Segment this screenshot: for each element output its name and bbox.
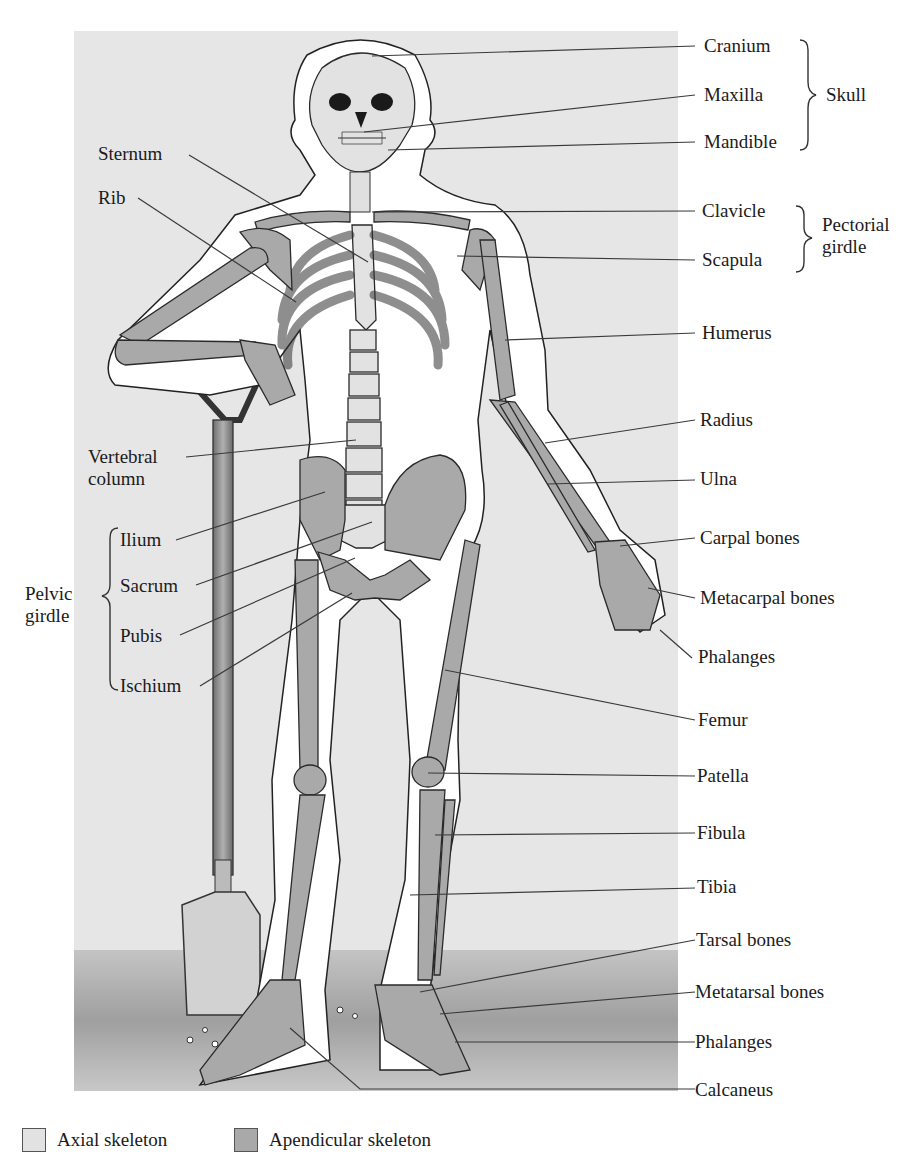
legend-appendicular-label: Apendicular skeleton: [269, 1129, 431, 1151]
swatch-axial: [22, 1128, 46, 1152]
label-scapula: Scapula: [702, 249, 762, 271]
label-rib: Rib: [98, 187, 125, 209]
label-cranium: Cranium: [704, 35, 771, 57]
label-tarsal-bones: Tarsal bones: [696, 929, 791, 951]
label-pubis: Pubis: [120, 625, 162, 647]
label-clavicle: Clavicle: [702, 200, 765, 222]
ground: [74, 950, 678, 1091]
label-patella: Patella: [697, 765, 749, 787]
label-femur: Femur: [698, 709, 748, 731]
group-label-pectoral-girdle: Pectorial girdle: [822, 214, 902, 258]
legend-axial: Axial skeleton: [22, 1128, 167, 1152]
label-ilium: Ilium: [120, 529, 161, 551]
label-metacarpal-bones: Metacarpal bones: [700, 587, 835, 609]
label-vertebral-column: Vertebral column: [88, 446, 178, 490]
label-calcaneus: Calcaneus: [695, 1079, 773, 1101]
swatch-appendicular: [234, 1128, 258, 1152]
label-phalanges-foot: Phalanges: [695, 1031, 772, 1053]
group-label-skull: Skull: [826, 84, 866, 106]
label-ulna: Ulna: [700, 468, 737, 490]
label-sacrum: Sacrum: [120, 575, 178, 597]
label-sternum: Sternum: [98, 143, 162, 165]
label-radius: Radius: [700, 409, 753, 431]
label-carpal-bones: Carpal bones: [700, 527, 800, 549]
label-tibia: Tibia: [697, 876, 736, 898]
legend-axial-label: Axial skeleton: [57, 1129, 167, 1151]
label-maxilla: Maxilla: [704, 84, 763, 106]
group-label-pelvic-girdle: Pelvic girdle: [25, 583, 85, 627]
vertebral-column: [346, 330, 382, 524]
label-phalanges-hand: Phalanges: [698, 646, 775, 668]
label-humerus: Humerus: [702, 322, 772, 344]
label-mandible: Mandible: [704, 131, 777, 153]
label-metatarsal-bones: Metatarsal bones: [695, 981, 824, 1003]
label-fibula: Fibula: [697, 822, 746, 844]
label-ischium: Ischium: [120, 675, 181, 697]
legend-appendicular: Apendicular skeleton: [234, 1128, 431, 1152]
